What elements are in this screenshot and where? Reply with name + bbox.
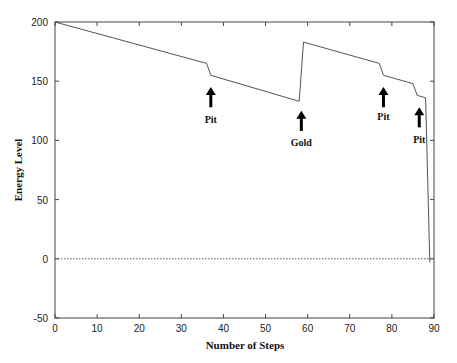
x-tick-label: 90	[428, 323, 440, 334]
y-tick-label: 0	[42, 254, 48, 265]
up-arrow-icon	[206, 87, 216, 95]
annotation-label: Pit	[377, 111, 390, 122]
annotation-label: Pit	[205, 114, 218, 125]
annotation-label: Gold	[291, 137, 313, 148]
up-arrow-icon	[296, 111, 306, 119]
x-tick-label: 50	[260, 323, 272, 334]
x-tick-label: 70	[344, 323, 356, 334]
up-arrow-icon	[414, 107, 424, 115]
x-tick-label: 10	[92, 323, 104, 334]
energy-chart: 0102030405060708090-50050100150200 PitGo…	[0, 0, 457, 363]
y-tick-label: 50	[37, 195, 49, 206]
annotation-label: Pit	[413, 134, 426, 145]
y-tick-label: 100	[31, 135, 48, 146]
y-tick-label: 200	[31, 17, 48, 28]
energy-line	[55, 22, 430, 262]
event-annotations: PitGoldPitPit	[205, 87, 426, 148]
up-arrow-icon	[378, 87, 388, 95]
x-tick-label: 30	[176, 323, 188, 334]
annotation-pit: Pit	[377, 87, 390, 122]
axis-ticks: 0102030405060708090-50050100150200	[31, 17, 440, 334]
x-axis-title: Number of Steps	[206, 339, 285, 351]
y-tick-label: 150	[31, 76, 48, 87]
x-tick-label: 0	[52, 323, 58, 334]
plot-frame	[55, 22, 434, 318]
x-tick-label: 60	[302, 323, 314, 334]
x-tick-label: 20	[134, 323, 146, 334]
x-tick-label: 80	[386, 323, 398, 334]
y-tick-label: -50	[34, 313, 49, 324]
y-axis-title: Energy Level	[12, 139, 24, 202]
x-tick-label: 40	[218, 323, 230, 334]
annotation-pit: Pit	[205, 87, 218, 125]
annotation-pit: Pit	[413, 107, 426, 145]
annotation-gold: Gold	[291, 111, 313, 149]
